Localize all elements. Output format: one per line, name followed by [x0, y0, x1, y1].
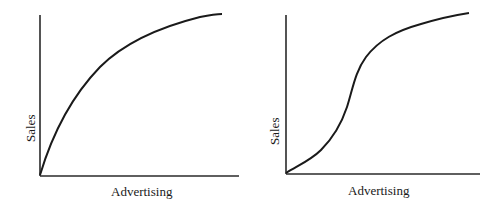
y-axis-label: Sales [268, 118, 281, 145]
y-axis-label: Sales [24, 115, 37, 142]
sales-curve [286, 13, 469, 173]
sales-curve [40, 14, 222, 175]
x-axis-label: Advertising [111, 185, 172, 198]
chart-plot-area [251, 0, 502, 207]
s-curve-response-chart: Advertising Sales [251, 0, 502, 207]
x-axis-label: Advertising [348, 184, 409, 197]
concave-response-chart: Advertising Sales [0, 0, 251, 207]
chart-plot-area [0, 0, 251, 207]
